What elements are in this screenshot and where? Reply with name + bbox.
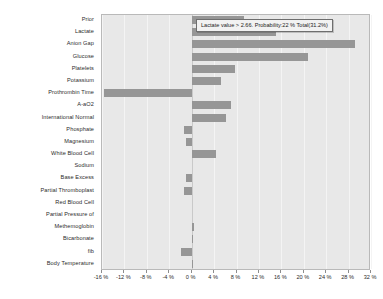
bar-row[interactable]: [102, 64, 369, 76]
horizontal-bar-chart: PriorLactateAnion GapGlucosePlateletsPot…: [0, 0, 383, 299]
bar-row[interactable]: [102, 52, 369, 64]
x-axis-tick: [213, 270, 214, 273]
bar-row[interactable]: [102, 88, 369, 100]
x-axis-tick: [325, 270, 326, 273]
bar-row[interactable]: [102, 210, 369, 222]
x-axis-tick-label: -4 %: [162, 274, 174, 280]
x-axis-tick: [348, 270, 349, 273]
bar-row[interactable]: [102, 234, 369, 246]
bar-row[interactable]: [102, 222, 369, 234]
x-axis-tick: [280, 270, 281, 273]
y-axis-tick-label: Prothrombin Time: [0, 87, 94, 98]
y-axis-tick-label: Base Excess: [0, 172, 94, 183]
bar[interactable]: [192, 150, 216, 158]
x-axis: -16 %-12 %-8 %-4 %0 %4 %8 %12 %16 %20 %2…: [101, 270, 370, 290]
bar[interactable]: [104, 89, 191, 97]
y-axis-tick-label: Potassium: [0, 75, 94, 86]
bar-row[interactable]: [102, 76, 369, 88]
bar-row[interactable]: [102, 247, 369, 259]
x-axis-tick-label: 4 %: [208, 274, 218, 280]
y-axis-labels: PriorLactateAnion GapGlucosePlateletsPot…: [0, 14, 98, 270]
bar[interactable]: [192, 65, 236, 73]
bar[interactable]: [186, 138, 192, 146]
x-axis-tick-label: -8 %: [140, 274, 152, 280]
bar-row[interactable]: [102, 198, 369, 210]
x-axis-tick-label: 0 %: [186, 274, 196, 280]
bar[interactable]: [192, 114, 227, 122]
y-axis-tick-label: Bicarbonate: [0, 233, 94, 244]
bar-row[interactable]: [102, 137, 369, 149]
bar[interactable]: [192, 101, 231, 109]
x-axis-tick: [123, 270, 124, 273]
y-axis-tick-label: Red Blood Cell: [0, 197, 94, 208]
bar-rows: [102, 15, 369, 269]
x-axis-tick: [303, 270, 304, 273]
bar-row[interactable]: [102, 39, 369, 51]
y-axis-tick-label: Prior: [0, 14, 94, 25]
bar[interactable]: [192, 53, 309, 61]
y-axis-tick-label: International Normal: [0, 112, 94, 123]
y-axis-tick-label: fib: [0, 246, 94, 257]
bar[interactable]: [184, 187, 192, 195]
y-axis-tick-label: Glucose: [0, 51, 94, 62]
bar[interactable]: [192, 223, 195, 231]
y-axis-tick-label: Anion Gap: [0, 38, 94, 49]
x-axis-tick: [168, 270, 169, 273]
x-axis-tick-label: 32 %: [364, 274, 377, 280]
bar[interactable]: [192, 235, 194, 243]
bar-row[interactable]: [102, 186, 369, 198]
x-axis-tick: [258, 270, 259, 273]
x-axis-tick-label: 24 %: [319, 274, 332, 280]
bar[interactable]: [186, 174, 192, 182]
x-axis-tick: [101, 270, 102, 273]
bar-row[interactable]: [102, 161, 369, 173]
x-axis-tick: [236, 270, 237, 273]
bar[interactable]: [192, 260, 193, 268]
y-axis-tick-label: Partial Thromboplast: [0, 185, 94, 196]
x-axis-tick-label: 8 %: [231, 274, 241, 280]
bar-row[interactable]: [102, 173, 369, 185]
bar-row[interactable]: [102, 100, 369, 112]
y-axis-tick-label: A-aO2: [0, 99, 94, 110]
bar[interactable]: [192, 40, 356, 48]
x-axis-tick-label: 16 %: [274, 274, 287, 280]
y-axis-tick-label: Platelets: [0, 63, 94, 74]
bar-row[interactable]: [102, 149, 369, 161]
y-axis-tick-label: Lactate: [0, 26, 94, 37]
y-axis-tick-label: White Blood Cell: [0, 148, 94, 159]
bar[interactable]: [192, 77, 221, 85]
bar-row[interactable]: [102, 113, 369, 125]
y-axis-tick-label: Partial Pressure of: [0, 209, 94, 220]
gridline: [371, 15, 372, 269]
tooltip: Lactate value > 2.66. Probability:22 % T…: [196, 19, 333, 32]
y-axis-tick-label: Sodium: [0, 160, 94, 171]
y-axis-tick-label: Phosphate: [0, 124, 94, 135]
x-axis-tick-label: 20 %: [296, 274, 309, 280]
x-axis-tick-label: -12 %: [116, 274, 131, 280]
y-axis-tick-label: Body Temperature: [0, 258, 94, 269]
x-axis-tick-label: -16 %: [94, 274, 109, 280]
x-axis-tick: [146, 270, 147, 273]
bar[interactable]: [181, 248, 192, 256]
y-axis-tick-label: Methemoglobin: [0, 221, 94, 232]
x-axis-tick-label: 28 %: [341, 274, 354, 280]
y-axis-tick-label: Magnesium: [0, 136, 94, 147]
x-axis-tick-label: 12 %: [252, 274, 265, 280]
x-axis-tick: [370, 270, 371, 273]
bar[interactable]: [184, 126, 191, 134]
bar-row[interactable]: [102, 125, 369, 137]
plot-area: [101, 14, 370, 270]
x-axis-tick: [191, 270, 192, 273]
